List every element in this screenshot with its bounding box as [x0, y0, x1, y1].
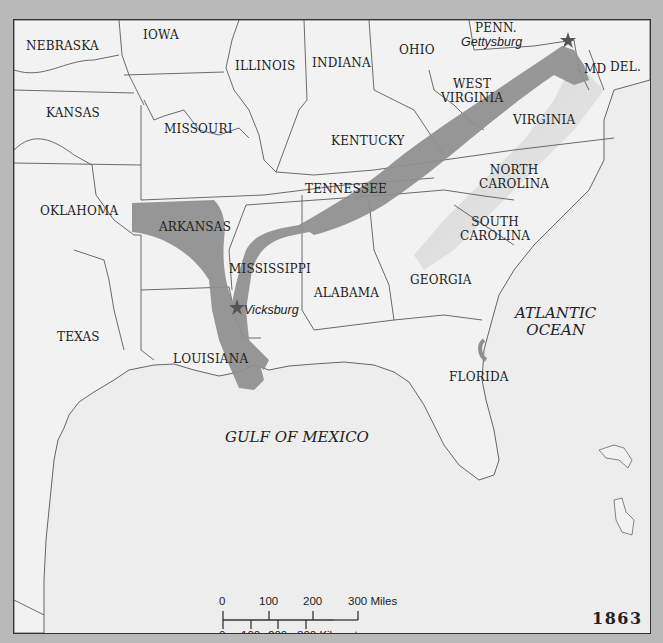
label-iowa: IOWA: [143, 29, 179, 43]
label-louisiana: LOUISIANA: [173, 353, 248, 367]
label-north-carolina: NORTH CAROLINA: [479, 164, 549, 192]
label-texas: TEXAS: [57, 331, 100, 345]
label-kansas: KANSAS: [46, 107, 100, 121]
scale-km-100: 100: [241, 629, 260, 634]
label-tennessee: TENNESSEE: [305, 183, 387, 197]
scale-km-0: 0: [219, 629, 225, 634]
map-year: 1863: [592, 609, 643, 628]
label-indiana: INDIANA: [312, 57, 371, 71]
label-alabama: ALABAMA: [314, 287, 379, 301]
label-mississippi: MISSISSIPPI: [229, 263, 311, 277]
scale-miles-0: 0: [219, 595, 225, 607]
label-florida: FLORIDA: [449, 371, 509, 385]
label-atlantic-ocean: ATLANTIC OCEAN: [515, 305, 596, 340]
scale-bar-lines: [223, 611, 358, 629]
label-gulf-of-mexico: GULF OF MEXICO: [225, 429, 369, 446]
label-ohio: OHIO: [399, 44, 435, 58]
scale-km-300: 300 Kilometers: [297, 629, 374, 634]
scale-miles-100: 100: [259, 595, 278, 607]
label-georgia: GEORGIA: [410, 274, 472, 288]
bahamas-islands: [599, 445, 634, 535]
label-west-virginia: WEST VIRGINIA: [441, 78, 503, 106]
label-penn: PENN.: [475, 22, 517, 36]
label-missouri: MISSOURI: [164, 123, 233, 137]
label-vicksburg: Vicksburg: [244, 303, 299, 317]
label-virginia: VIRGINIA: [513, 114, 575, 128]
label-arkansas: ARKANSAS: [159, 221, 231, 235]
label-nebraska: NEBRASKA: [26, 40, 99, 54]
label-south-carolina: SOUTH CAROLINA: [460, 216, 530, 244]
scale-km-200: 200: [268, 629, 287, 634]
label-md: MD: [584, 63, 606, 77]
label-gettysburg: Gettysburg: [461, 35, 522, 49]
label-del: DEL.: [610, 61, 641, 75]
scale-miles-300: 300 Miles: [348, 595, 397, 607]
label-kentucky: KENTUCKY: [331, 135, 405, 149]
label-illinois: ILLINOIS: [235, 60, 295, 74]
scale-miles-200: 200: [303, 595, 322, 607]
label-oklahoma: OKLAHOMA: [40, 205, 118, 219]
map-frame: NEBRASKA IOWA ILLINOIS INDIANA OHIO PENN…: [13, 19, 651, 634]
